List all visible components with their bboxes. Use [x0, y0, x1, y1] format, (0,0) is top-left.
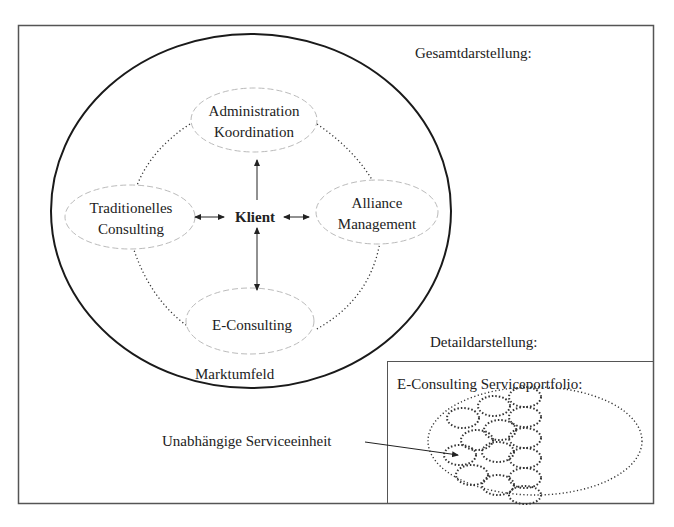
service-unit	[482, 442, 514, 462]
detail-box-title: E-Consulting Serviceportfolio:	[397, 376, 582, 392]
node-alliance-outline	[316, 180, 438, 244]
service-unit	[509, 407, 541, 427]
independent-unit-label: Unabhängige Serviceeinheit	[162, 433, 332, 449]
service-unit	[509, 428, 541, 448]
node-alliance-label-2: Management	[338, 216, 417, 232]
independent-unit-pointer	[365, 442, 458, 455]
market-environment-label: Marktumfeld	[195, 366, 275, 382]
node-admin-label-1: Administration	[209, 103, 300, 119]
dotted-ring-tl	[136, 124, 190, 188]
service-unit	[478, 396, 510, 416]
node-econsulting-label: E-Consulting	[212, 317, 293, 333]
service-unit	[461, 430, 493, 450]
outer-frame	[19, 26, 654, 504]
service-unit	[447, 408, 479, 428]
service-unit	[456, 465, 488, 485]
node-admin-outline	[191, 88, 317, 152]
diagram-canvas: Gesamtdarstellung: Administration Koordi…	[0, 0, 674, 527]
node-traditional-label-1: Traditionelles	[90, 200, 173, 216]
service-portfolio-outline	[428, 387, 642, 495]
service-unit	[509, 486, 541, 504]
service-unit	[484, 420, 516, 440]
dotted-ring-br	[315, 242, 380, 330]
center-client-label: Klient	[235, 209, 275, 225]
node-traditional-label-2: Consulting	[98, 221, 164, 237]
node-traditional-outline	[65, 185, 195, 249]
dotted-ring-bl	[133, 247, 190, 328]
node-alliance-label-1: Alliance	[352, 195, 403, 211]
detail-heading: Detaildarstellung:	[430, 334, 537, 350]
dotted-ring-tr	[317, 124, 374, 183]
node-admin-label-2: Koordination	[214, 124, 294, 140]
service-unit	[444, 445, 476, 465]
overview-title: Gesamtdarstellung:	[415, 45, 532, 61]
service-units	[444, 387, 541, 504]
